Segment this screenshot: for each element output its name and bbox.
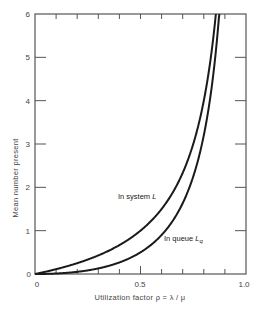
x-tick-label-1.0: 1.0 [238,280,250,289]
y-tick-label-4: 4 [26,97,31,106]
label-in-queue: In queue Lq [164,234,203,244]
x-axis-title: Utilization factor ρ = λ / μ [95,293,186,302]
label-in-queue-prefix: In queue [164,234,195,243]
y-tick-label-2: 2 [26,183,31,192]
x-tick-label-0: 0 [35,280,40,289]
plot-frame [35,14,246,274]
label-in-system: In system L [118,192,156,201]
x-axis-ticks [56,14,225,274]
y-tick-label-5: 5 [26,53,31,62]
y-tick-label-3: 3 [26,140,31,149]
y-tick-label-0: 0 [27,270,32,279]
queue-length-chart: 6 5 4 3 2 1 0 0 0.5 1.0 Mean number pres… [0,0,262,309]
y-axis-ticks [35,57,246,230]
label-in-queue-subscript: q [199,238,203,244]
y-tick-label-1: 1 [26,227,31,236]
label-in-system-symbol: L [152,192,156,201]
label-in-system-prefix: In system [118,192,152,201]
y-axis-title: Mean number present [11,138,20,218]
x-tick-label-0.5: 0.5 [134,280,146,289]
y-tick-label-6: 6 [26,10,31,19]
